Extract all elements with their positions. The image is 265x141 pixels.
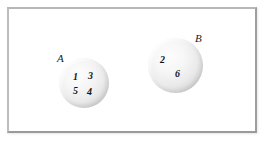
set-a-element: 5 [73,86,78,96]
set-a-label: A [57,53,64,64]
set-a-element: 4 [87,87,92,97]
set-b-circle [148,38,203,93]
set-a-circle [59,58,109,108]
set-a-element: 1 [73,72,78,82]
set-b-element: 2 [160,55,165,65]
set-b-element: 6 [175,69,180,79]
set-a-element: 3 [88,71,93,81]
set-diagram-canvas: A B 135426 [0,0,265,141]
universal-set-frame [7,7,257,133]
set-b-label: B [195,33,202,44]
